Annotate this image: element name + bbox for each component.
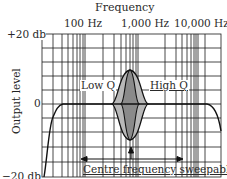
x-tick-100hz: 100 Hz xyxy=(64,18,102,29)
y-axis-label: Output level xyxy=(10,74,22,134)
x-tick-10000hz: 10,000 Hz xyxy=(174,18,227,29)
y-tick-plus20: +20 db xyxy=(7,29,46,40)
high-q-label: High Q xyxy=(149,80,189,91)
y-tick-minus20: −20 db xyxy=(2,171,41,179)
x-tick-1000hz: 1,000 Hz xyxy=(121,18,169,29)
sweep-arrow xyxy=(81,147,183,162)
chart-title: Frequency xyxy=(95,2,155,13)
y-tick-zero: 0 xyxy=(34,98,41,109)
sweep-label: Centre frequency sweepable xyxy=(83,164,227,175)
low-q-label: Low Q xyxy=(80,80,116,91)
